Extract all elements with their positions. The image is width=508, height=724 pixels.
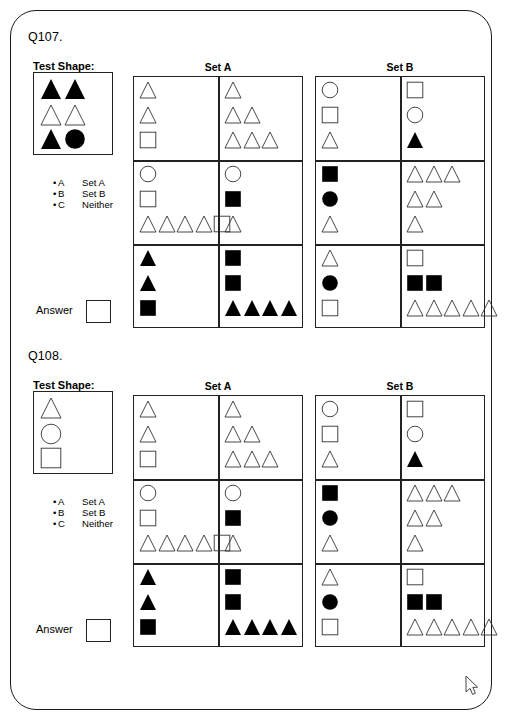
cell-row (224, 249, 242, 267)
circle-outline-icon (321, 81, 339, 99)
triangle-outline-icon (224, 215, 242, 233)
cell-row (139, 165, 157, 183)
option-value: Neither (82, 518, 113, 529)
triangle-solid-icon (261, 299, 279, 317)
cell-row (139, 106, 157, 124)
triangle-outline-icon (425, 618, 443, 636)
square-outline-icon (406, 249, 424, 267)
grid-cell (134, 564, 219, 648)
cell-row (139, 190, 157, 208)
option-key: C (58, 518, 82, 529)
cell-row (139, 215, 231, 233)
test-shape-row (40, 397, 62, 419)
cell-row (224, 450, 279, 468)
triangle-solid-icon (64, 78, 86, 100)
triangle-outline-icon (261, 450, 279, 468)
triangle-solid-icon (243, 618, 261, 636)
square-solid-icon (224, 593, 242, 611)
triangle-outline-icon (321, 450, 339, 468)
mouse-pointer-icon (466, 676, 482, 698)
test-shape-label: Test Shape: (33, 60, 95, 72)
grid-cell (316, 77, 401, 161)
option-item[interactable]: •ASet A (53, 496, 113, 507)
cell-row (139, 425, 157, 443)
option-key: B (58, 507, 82, 518)
cell-row (224, 274, 242, 292)
answer-input-box[interactable] (86, 619, 111, 642)
triangle-outline-icon (406, 509, 424, 527)
triangle-outline-icon (321, 131, 339, 149)
triangle-outline-icon (139, 534, 157, 552)
cell-row (224, 568, 242, 586)
square-solid-icon (321, 165, 339, 183)
circle-solid-icon (321, 509, 339, 527)
grid-cell (219, 77, 304, 161)
square-solid-icon (139, 618, 157, 636)
triangle-outline-icon (40, 397, 62, 419)
cell-row (224, 131, 279, 149)
test-shape-box (33, 72, 113, 155)
cell-row (321, 618, 339, 636)
cell-row (406, 81, 424, 99)
square-solid-icon (406, 274, 424, 292)
answer-input-box[interactable] (86, 300, 111, 323)
option-value: Set A (82, 177, 105, 188)
cell-row (406, 106, 424, 124)
option-item[interactable]: •BSet B (53, 507, 113, 518)
circle-outline-icon (139, 484, 157, 502)
triangle-outline-icon (462, 299, 480, 317)
grid-cell (219, 480, 304, 564)
option-item[interactable]: •BSet B (53, 188, 113, 199)
cell-row (224, 400, 242, 418)
triangle-solid-icon (280, 618, 298, 636)
triangle-outline-icon (40, 104, 62, 126)
triangle-outline-icon (406, 165, 424, 183)
square-outline-icon (139, 190, 157, 208)
cell-row (321, 106, 339, 124)
triangle-outline-icon (243, 106, 261, 124)
cell-row (406, 131, 424, 149)
square-solid-icon (321, 484, 339, 502)
triangle-outline-icon (195, 534, 213, 552)
option-item[interactable]: •CNeither (53, 518, 113, 529)
cell-row (224, 299, 298, 317)
option-value: Set A (82, 496, 105, 507)
test-shape-row (40, 447, 62, 469)
cell-row (406, 450, 424, 468)
triangle-outline-icon (443, 299, 461, 317)
triangle-outline-icon (406, 215, 424, 233)
option-item[interactable]: •ASet A (53, 177, 113, 188)
triangle-outline-icon (321, 249, 339, 267)
cell-row (406, 568, 424, 586)
square-outline-icon (139, 509, 157, 527)
triangle-outline-icon (406, 299, 424, 317)
triangle-solid-icon (261, 618, 279, 636)
grid-cell (401, 396, 486, 480)
cell-row (406, 509, 443, 527)
option-key: A (58, 496, 82, 507)
grid-cell (401, 480, 486, 564)
options-list: •ASet A•BSet B•CNeither (53, 496, 113, 530)
triangle-outline-icon (321, 215, 339, 233)
grid-cell (316, 396, 401, 480)
cell-row (321, 131, 339, 149)
cell-row (224, 165, 242, 183)
grid-cell (401, 245, 486, 329)
cell-row (224, 190, 242, 208)
circle-outline-icon (406, 106, 424, 124)
cell-row (139, 299, 157, 317)
square-outline-icon (406, 81, 424, 99)
cell-row (321, 509, 339, 527)
square-solid-icon (425, 593, 443, 611)
circle-solid-icon (64, 128, 86, 150)
option-value: Set B (82, 188, 105, 199)
question-label: Q107. (28, 30, 63, 44)
option-item[interactable]: •CNeither (53, 199, 113, 210)
cell-row (139, 400, 157, 418)
square-outline-icon (40, 447, 62, 469)
grid-cell (219, 161, 304, 245)
cell-row (139, 568, 157, 586)
triangle-outline-icon (480, 299, 498, 317)
triangle-outline-icon (425, 484, 443, 502)
cell-row (224, 593, 242, 611)
